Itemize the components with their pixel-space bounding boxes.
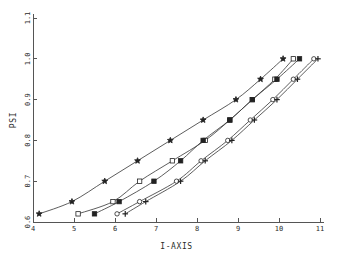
axes-group [33, 14, 324, 222]
data-point-marker-square [201, 138, 205, 142]
y-tick-label: 0.7 [24, 175, 32, 188]
x-tick-label: 9 [236, 225, 240, 233]
data-point-marker-star [36, 211, 42, 217]
x-tick-label: 10 [275, 225, 283, 233]
y-tick-label: 0.8 [24, 134, 32, 147]
series-1 [36, 56, 286, 217]
x-axis-title: I-AXIS [160, 242, 193, 251]
data-point-marker-square [137, 179, 141, 183]
y-axis-title: PSI [9, 112, 18, 128]
data-point-marker-circle [137, 199, 141, 203]
data-point-marker-square [297, 57, 301, 61]
y-tick-label: 1.1 [24, 12, 32, 25]
data-point-marker-circle [115, 212, 119, 216]
x-tick-label: 8 [195, 225, 199, 233]
series-4 [115, 57, 316, 216]
data-point-marker-square [291, 57, 295, 61]
series-line-2 [78, 59, 293, 214]
data-point-marker-square [228, 118, 232, 122]
data-point-marker-square [117, 199, 121, 203]
chart-container: 45678910110.60.70.80.91.01.1 I-AXISPSI [0, 0, 338, 255]
series-line-3 [95, 59, 300, 214]
data-point-marker-square [76, 212, 80, 216]
data-series-group [36, 56, 321, 217]
x-tick-label: 7 [154, 225, 158, 233]
data-point-marker-square [92, 212, 96, 216]
data-point-marker-plus [122, 211, 128, 217]
x-tick-label: 6 [113, 225, 117, 233]
data-point-marker-square [250, 97, 254, 101]
tick-marks-group [33, 18, 320, 222]
series-line-5 [125, 59, 318, 214]
data-point-marker-square [275, 77, 279, 81]
tick-labels-group: 45678910110.60.70.80.91.01.1 [24, 12, 324, 233]
series-2 [76, 57, 296, 216]
data-point-marker-square [170, 159, 174, 163]
y-tick-label: 1.0 [24, 52, 32, 65]
x-tick-label: 5 [72, 225, 76, 233]
data-point-marker-star [69, 199, 75, 205]
y-tick-label: 0.9 [24, 93, 32, 106]
series-line-4 [117, 59, 314, 214]
data-point-marker-square [152, 179, 156, 183]
x-tick-label: 11 [316, 225, 324, 233]
y-tick-label: 0.6 [24, 216, 32, 229]
data-point-marker-square [178, 159, 182, 163]
data-point-marker-square [111, 199, 115, 203]
series-3 [92, 57, 301, 216]
chart-plot-area: 45678910110.60.70.80.91.01.1 I-AXISPSI [0, 0, 338, 255]
